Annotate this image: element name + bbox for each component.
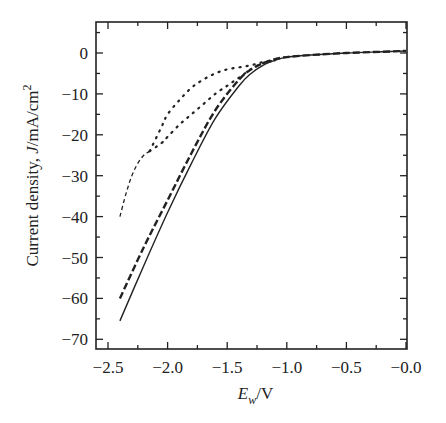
y-axis-label: Current density, J/mA/cm2 (20, 85, 42, 267)
y-tick-label: −40 (61, 208, 88, 227)
x-tick-label: −0.0 (391, 358, 422, 377)
x-tick-label: −2.5 (93, 358, 124, 377)
x-tick-label: −2.0 (152, 358, 183, 377)
series-solid (120, 51, 406, 321)
series-short-dashed (120, 151, 150, 216)
y-tick-label: 0 (80, 44, 89, 63)
y-tick-label: −60 (61, 289, 88, 308)
y-tick-label: −30 (61, 167, 88, 186)
current-density-chart: −2.5−2.0−1.5−1.0−0.5−0.00−10−20−30−40−50… (0, 0, 446, 423)
x-tick-label: −1.0 (271, 358, 302, 377)
series-layer (120, 51, 406, 321)
tick-labels: −2.5−2.0−1.5−1.0−0.5−0.00−10−20−30−40−50… (61, 44, 421, 377)
x-tick-label: −0.5 (331, 358, 362, 377)
series-long-dashed (120, 51, 406, 298)
x-axis-label: Ew/V (237, 384, 274, 407)
y-tick-label: −70 (61, 330, 88, 349)
ticks-layer (96, 22, 407, 349)
y-tick-label: −10 (61, 85, 88, 104)
y-tick-label: −20 (61, 126, 88, 145)
x-tick-label: −1.5 (212, 358, 243, 377)
y-tick-label: −50 (61, 249, 88, 268)
series-dotted-upper (150, 60, 275, 151)
plot-frame (96, 22, 407, 349)
